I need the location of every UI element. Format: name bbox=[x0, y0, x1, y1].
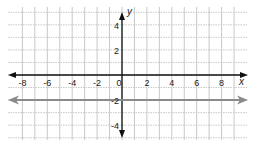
axes bbox=[8, 12, 248, 138]
plotted-line-y-equals-minus-2 bbox=[8, 96, 248, 105]
x-axis-arrow-left-icon bbox=[8, 72, 16, 78]
x-tick-label: 2 bbox=[144, 78, 149, 88]
y-tick-label: 4 bbox=[114, 21, 119, 31]
y-tick-label: -2 bbox=[111, 96, 119, 106]
coordinate-plane: -8-6-4-20246842-2-4 x y bbox=[0, 0, 255, 147]
x-tick-label: -6 bbox=[43, 78, 51, 88]
x-tick-label: 8 bbox=[219, 78, 224, 88]
x-tick-label: -4 bbox=[68, 78, 76, 88]
y-axis-label: y bbox=[126, 6, 133, 17]
grid-lines bbox=[8, 7, 247, 140]
x-tick-label: -2 bbox=[93, 78, 101, 88]
x-tick-label: 0 bbox=[116, 78, 121, 88]
y-tick-label: -4 bbox=[111, 121, 119, 131]
y-axis-arrow-down-icon bbox=[119, 130, 125, 138]
y-tick-label: 2 bbox=[114, 46, 119, 56]
x-tick-label: 6 bbox=[194, 78, 199, 88]
y-axis-arrow-up-icon bbox=[119, 12, 125, 20]
x-tick-label: 4 bbox=[169, 78, 174, 88]
x-axis-label: x bbox=[238, 76, 245, 87]
x-tick-label: -8 bbox=[18, 78, 26, 88]
